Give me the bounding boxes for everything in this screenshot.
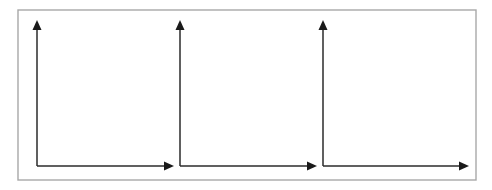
figure-canvas <box>0 0 492 190</box>
outer-border <box>18 10 476 180</box>
figure-container <box>0 0 492 190</box>
